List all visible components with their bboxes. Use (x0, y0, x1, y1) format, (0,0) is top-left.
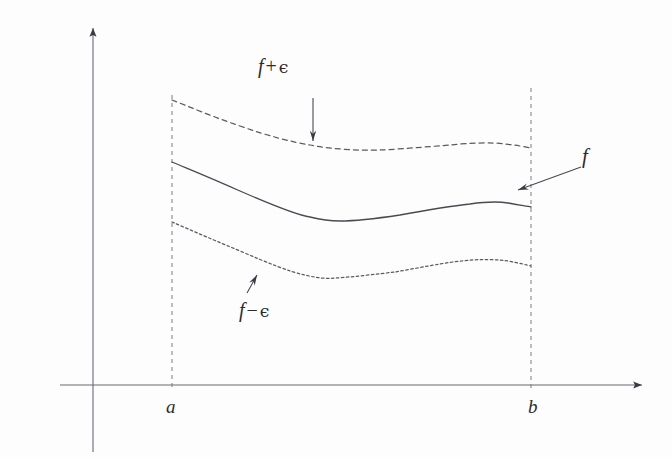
f-minus-epsilon-symbol: ϵ (260, 301, 270, 321)
f-minus-epsilon-label: f−ϵ (239, 300, 269, 320)
figure-canvas: f+ϵ f−ϵ f a b (0, 0, 672, 457)
curves-group (172, 100, 531, 278)
f-arrow (518, 167, 581, 190)
tick-label-a-text: a (166, 396, 176, 417)
upper-bound-curve (172, 100, 531, 150)
tick-label-a: a (166, 397, 176, 416)
lower-bound-curve (172, 222, 531, 278)
f-plus-epsilon-symbol: ϵ (279, 57, 289, 77)
tick-label-b: b (528, 397, 538, 416)
f-plus-epsilon-var: f (258, 55, 264, 77)
f-minus-epsilon-operator: − (245, 299, 260, 321)
function-curve (172, 162, 531, 221)
f-label: f (582, 146, 588, 167)
f-plus-epsilon-label: f+ϵ (258, 56, 288, 76)
interval-boundaries (172, 88, 531, 388)
f-minus-epsilon-var: f (239, 299, 245, 321)
f-minus-eps-arrow (247, 275, 257, 293)
f-plus-epsilon-operator: + (264, 55, 279, 77)
axes-group (60, 28, 642, 452)
diagram-svg (0, 0, 672, 457)
tick-label-b-text: b (528, 396, 538, 417)
f-var: f (582, 144, 588, 168)
